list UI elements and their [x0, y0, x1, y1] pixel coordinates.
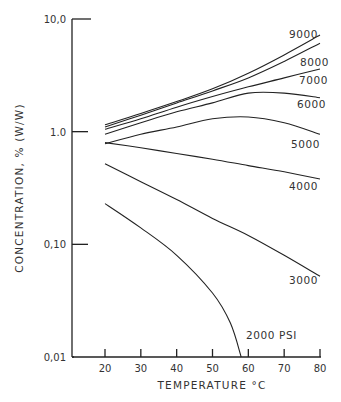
x-tick-label: 40: [170, 363, 183, 374]
y-tick-label: 1.0: [50, 127, 66, 138]
x-tick-label: 50: [206, 363, 219, 374]
x-tick-label: 70: [278, 363, 291, 374]
curves: [105, 35, 320, 357]
curve-5000: [105, 117, 320, 144]
ticks: 0,010,101.010,020304050607080: [44, 14, 327, 374]
curve-2000: [105, 204, 241, 357]
curve-7000: [105, 69, 320, 129]
axes: [72, 19, 321, 357]
curve-label-4000: 4000: [289, 180, 318, 192]
curve-6000: [105, 92, 320, 134]
curve-labels: 90008000700060005000400030002000 PSI: [246, 28, 329, 341]
curve-label-2000: 2000 PSI: [246, 329, 297, 341]
y-tick-label: 10,0: [44, 14, 66, 25]
y-tick-label: 0,10: [44, 239, 66, 250]
curve-label-5000: 5000: [291, 138, 320, 150]
curve-label-6000: 6000: [297, 98, 326, 110]
curve-label-8000: 8000: [300, 56, 329, 68]
curve-label-7000: 7000: [299, 74, 328, 86]
curve-label-3000: 3000: [289, 274, 318, 286]
y-tick-label: 0,01: [44, 352, 66, 363]
curve-label-9000: 9000: [289, 28, 318, 40]
curve-3000: [105, 164, 320, 277]
x-tick-label: 20: [99, 363, 112, 374]
curve-9000: [105, 35, 320, 125]
x-tick-label: 60: [242, 363, 255, 374]
y-axis-title: CONCENTRATION, % (W/W): [13, 103, 25, 272]
chart-canvas: 0,010,101.010,020304050607080 9000800070…: [0, 0, 341, 402]
x-axis-title: TEMPERATURE °C: [156, 379, 266, 391]
x-tick-label: 30: [134, 363, 147, 374]
curve-4000: [105, 143, 320, 179]
x-tick-label: 80: [314, 363, 327, 374]
